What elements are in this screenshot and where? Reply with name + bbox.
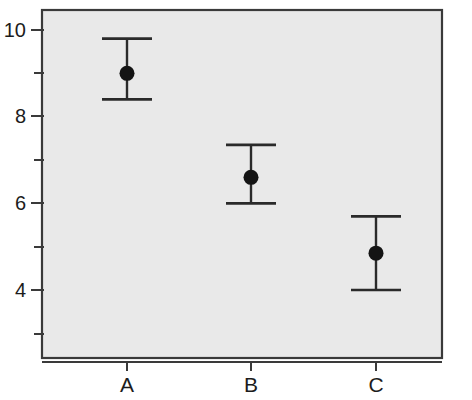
data-marker-c[interactable] [369,246,384,261]
y-tick-label-6: 6 [15,192,26,214]
y-tick-label-8: 8 [15,105,26,127]
x-label-b: B [244,373,258,396]
y-axis-tick-labels: 10 8 6 4 [4,19,26,301]
y-tick-label-4: 4 [15,279,26,301]
x-axis-category-labels: A B C [120,373,384,396]
plot-panel-background [42,10,442,358]
errorbar-chart: 10 8 6 4 A B C [0,0,472,400]
x-axis-ticks [127,362,376,371]
x-label-a: A [120,373,134,396]
data-marker-b[interactable] [244,170,259,185]
y-tick-label-10: 10 [4,19,26,41]
chart-container: 10 8 6 4 A B C [0,0,472,400]
data-marker-a[interactable] [120,66,135,81]
x-label-c: C [368,373,383,396]
